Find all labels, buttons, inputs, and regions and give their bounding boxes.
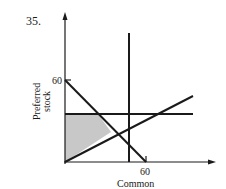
x-tick-label: 60 [140, 166, 150, 177]
y-axis-arrow-icon [63, 12, 68, 20]
feasible-region [65, 114, 111, 162]
linear-programming-diagram: 60 60 Common Preferred stock [0, 0, 226, 189]
y-axis-label-line2: stock [41, 91, 52, 112]
x-axis-label: Common [117, 178, 154, 189]
y-tick-label: 60 [52, 75, 62, 86]
x-axis-arrow-icon [208, 160, 216, 165]
